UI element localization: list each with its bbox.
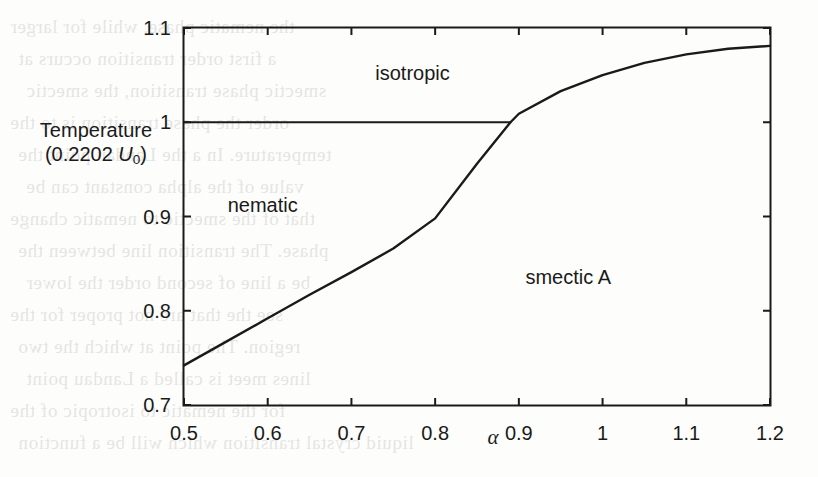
y-axis-title-line1: Temperature <box>40 118 152 142</box>
region-label-nematic: nematic <box>228 194 298 217</box>
y-axis-title-subscript: 0 <box>133 152 141 167</box>
x-tick-label: 1.2 <box>756 422 784 445</box>
y-axis-title: Temperature (0.2202 U0) <box>40 118 152 169</box>
region-label-smectic-a: smectic A <box>525 265 611 288</box>
x-tick-label: 0.8 <box>421 422 449 445</box>
y-axis-title-prefix: (0.2202 <box>45 143 118 165</box>
x-tick-label: 1.1 <box>672 422 700 445</box>
y-tick-label: 0.7 <box>143 394 171 417</box>
y-axis-title-symbol: U <box>118 143 132 165</box>
region-label-isotropic: isotropic <box>375 62 449 85</box>
y-axis-title-suffix: ) <box>140 143 147 165</box>
phase-diagram-figure: the nematic phase, while for largera fir… <box>0 0 818 477</box>
y-tick-label: 1 <box>160 111 171 134</box>
y-tick-label: 0.9 <box>143 205 171 228</box>
y-tick-label: 1.1 <box>143 17 171 40</box>
x-tick-label: 1 <box>597 422 608 445</box>
x-tick-label: 0.5 <box>170 422 198 445</box>
x-tick-label: 0.7 <box>338 422 366 445</box>
x-tick-label: 0.9 <box>505 422 533 445</box>
x-tick-label: 0.6 <box>254 422 282 445</box>
y-axis-title-line2: (0.2202 U0) <box>40 142 152 169</box>
y-tick-label: 0.8 <box>143 299 171 322</box>
x-axis-title: α <box>487 425 498 450</box>
